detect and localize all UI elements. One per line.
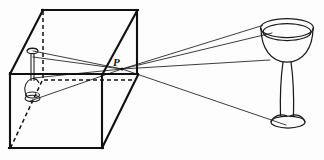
pinhole-label: P xyxy=(113,57,120,68)
diagram-canvas xyxy=(0,0,324,160)
pinhole-camera-figure: P xyxy=(0,0,324,160)
pinhole-point xyxy=(121,68,124,71)
